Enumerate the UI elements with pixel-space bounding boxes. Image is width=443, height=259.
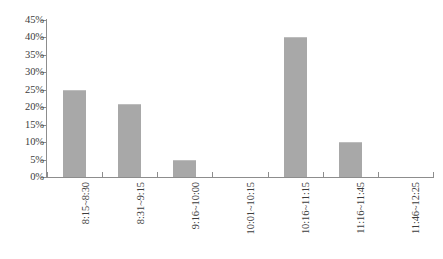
x-axis-tick-label: 9:16~10:00 (190, 182, 201, 254)
y-axis-tick-label: 35% (10, 50, 44, 60)
x-axis-tick-label: 11:46~12:25 (410, 182, 421, 254)
y-axis-tick-label: 5% (10, 155, 44, 165)
figure-caption (0, 246, 443, 259)
y-axis-tick-label: 40% (10, 32, 44, 42)
bar (118, 104, 141, 177)
y-axis-tick-label: 20% (10, 102, 44, 112)
x-axis-tick (433, 172, 434, 178)
plot-area (47, 20, 433, 177)
x-axis-line (42, 177, 434, 178)
y-axis-tick-label: 15% (10, 120, 44, 130)
x-axis-tick-label: 8:31~9:15 (135, 182, 146, 254)
x-axis-tick-label: 10:01~10:15 (245, 182, 256, 254)
bar (173, 160, 196, 177)
bar (284, 37, 307, 177)
y-axis-tick-label: 25% (10, 85, 44, 95)
x-axis-tick-label: 10:16~11:15 (300, 182, 311, 254)
y-axis-tick-label: 45% (10, 15, 44, 25)
x-axis-tick-label: 8:15~8:30 (80, 182, 91, 254)
y-axis-tick-label: 0% (10, 172, 44, 182)
bar-chart-figure: 0%5%10%15%20%25%30%35%40%45% 8:15~8:308:… (0, 0, 443, 259)
bar (339, 142, 362, 177)
y-axis-tick-label: 30% (10, 67, 44, 77)
y-axis-tick-label: 10% (10, 137, 44, 147)
bar (63, 90, 86, 177)
x-axis-tick-label: 11:16~11:45 (355, 182, 366, 254)
